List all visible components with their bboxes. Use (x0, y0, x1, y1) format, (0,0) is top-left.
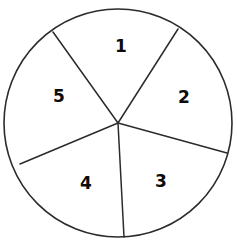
sector-circle-diagram: 1 2 3 4 5 (0, 0, 237, 248)
sector-label-5: 5 (53, 86, 65, 106)
sector-label-1: 1 (115, 36, 127, 56)
sector-label-3: 3 (155, 171, 167, 191)
sector-label-4: 4 (80, 173, 92, 193)
figure-container: 1 2 3 4 5 (0, 0, 237, 248)
sector-label-2: 2 (178, 87, 190, 107)
